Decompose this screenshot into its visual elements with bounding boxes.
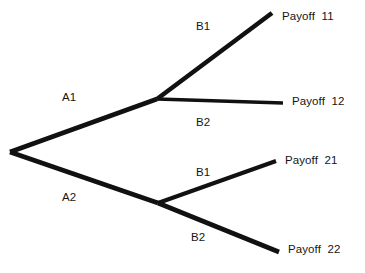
branch-label-a1: A1 [62,92,76,104]
edge-b1-upper [157,13,272,99]
branch-label-a2: A2 [62,192,76,204]
branch-label-b1-upper: B1 [196,21,210,33]
payoff-label-21: Payoff 21 [285,155,338,167]
payoff-label-12: Payoff 12 [292,96,345,108]
tree-edges-layer [0,0,365,273]
edge-a1 [10,99,157,152]
edge-b2-lower [158,203,279,252]
branch-label-b2-lower: B2 [191,232,205,244]
payoff-label-22: Payoff 22 [288,244,341,256]
game-tree-diagram: A1 A2 B1 B2 B1 B2 Payoff 11 Payoff 12 Pa… [0,0,365,273]
branch-label-b1-lower: B1 [196,167,210,179]
edge-b1-lower [158,161,276,203]
payoff-label-11: Payoff 11 [282,11,334,23]
branch-label-b2-upper: B2 [196,117,210,129]
edge-a2 [10,152,158,203]
edge-b2-upper [157,99,283,103]
